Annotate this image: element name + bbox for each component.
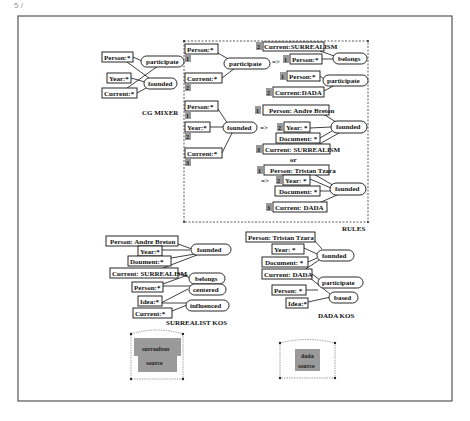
concept-label: Person: Andre Breton <box>110 238 176 246</box>
concept-label: Person: Tristan Tzara <box>248 234 314 242</box>
rules-corner <box>367 221 369 223</box>
index-number: 2 <box>267 90 270 96</box>
concept-label: Person:* <box>289 73 316 81</box>
concept-label: Current:* <box>135 310 166 318</box>
concept-label: Current: DADA <box>264 271 313 279</box>
index-number: 3 <box>257 147 260 153</box>
source-label: source <box>146 360 163 366</box>
concept-label: Idea:* <box>140 298 160 306</box>
index-number: 1 <box>284 57 287 63</box>
index-number: 2 <box>278 125 281 131</box>
or-label: or <box>290 156 297 164</box>
rule2-rhs-dada: 1 Person: Tristan Tzara => 2 Year: * Doc… <box>257 165 366 212</box>
relation-label: founded <box>227 124 252 132</box>
diagram-canvas: 5 / Person:* Year:* Current:* participat… <box>0 0 470 421</box>
implies-arrow: => <box>260 124 268 132</box>
concept-label: Person: Andre Breton <box>269 107 335 115</box>
index-number: 1 <box>281 74 284 80</box>
relation-label: founded <box>322 252 347 260</box>
concept-label: Year: * <box>286 124 308 132</box>
rule2-lhs: Person:* 1 Year:* 2 Current:* 3 founded <box>185 101 257 166</box>
concept-label: Year:* <box>140 248 160 256</box>
cg-mixer-graph: Person:* Year:* Current:* participate fo… <box>102 52 184 98</box>
rule2-rhs-surrealism: 1 Person: Andre Breton 2 Year: * Documen… <box>255 105 367 154</box>
concept-label: Year: * <box>285 177 307 185</box>
concept-label: Person: * <box>274 287 303 295</box>
dada-kos-graph: Person: Tristan Tzara Year: * Document: … <box>246 232 363 308</box>
source-label: dada <box>301 353 314 359</box>
relation-label: founded <box>335 185 360 193</box>
concept-label: Person:* <box>104 54 131 62</box>
concept-label: Current:* <box>187 150 218 158</box>
concept-label: Current: SURREALISM <box>265 146 341 154</box>
rules-corner <box>183 40 185 42</box>
index-number: 2 <box>186 85 189 91</box>
index-number: 1 <box>186 113 189 119</box>
concept-label: Current: DADA <box>275 204 324 212</box>
outer-frame <box>18 16 452 401</box>
relation-label: participate <box>327 77 360 85</box>
surrealist-kos-graph: Person: Andre Breton Year:* Doument:* fo… <box>106 236 231 318</box>
index-number: 2 <box>257 44 260 50</box>
source-label: source <box>298 363 315 369</box>
cg-mixer-label: CG MIXER <box>142 109 179 117</box>
relation-label: based <box>334 294 351 302</box>
surrealist-kos-label: SURREALIST KOS <box>166 319 227 327</box>
rules-corner <box>183 221 185 223</box>
concept-label: Person:* <box>187 46 214 54</box>
concept-label: Document: * <box>265 259 304 267</box>
concept-label: Current:* <box>104 90 135 98</box>
dada-source[interactable]: dada source <box>279 340 336 380</box>
index-number: 2 <box>277 178 280 184</box>
rules-corner <box>367 40 369 42</box>
concept-label: Year: * <box>274 246 296 254</box>
rules-label: RULES <box>342 225 365 233</box>
index-number: 3 <box>267 205 270 211</box>
concept-label: Person: Tristan Tzara <box>270 167 336 175</box>
concept-label: Current: SURREALISM <box>112 270 188 278</box>
concept-label: Current:DADA <box>275 89 322 97</box>
index-number: 1 <box>258 168 261 174</box>
concept-label: Document: * <box>279 135 318 143</box>
concept-label: Current:* <box>187 75 218 83</box>
dada-kos-label: DADA KOS <box>318 312 354 320</box>
concept-label: Year:* <box>109 75 129 83</box>
relation-label: belongs <box>338 55 361 63</box>
index-number: 1 <box>256 108 259 114</box>
concept-label: Idea:* <box>288 300 308 308</box>
relation-label: participate <box>322 279 355 287</box>
rule1-rhs-dada: 1 Person:* participate 2 Current:DADA <box>266 71 368 97</box>
concept-label: Person:* <box>134 284 161 292</box>
relation-label: participate <box>229 60 262 68</box>
relation-label: belongs <box>195 275 218 283</box>
index-number: 3 <box>186 160 189 166</box>
relation-label: founded <box>148 80 173 88</box>
implies-arrow: => <box>261 177 269 185</box>
page-marker: 5 / <box>14 1 24 10</box>
concept-label: Year:* <box>187 124 207 132</box>
relation-label: participate <box>146 58 179 66</box>
concept-label: Document: * <box>279 188 318 196</box>
relation-label: founded <box>336 123 361 131</box>
relation-label: founded <box>197 246 222 254</box>
relation-label: influenced <box>190 302 221 310</box>
concept-label: Person:* <box>292 56 319 64</box>
index-number: 1 <box>186 56 189 62</box>
rule1-lhs: Person:* 1 Current:* 2 participate <box>185 44 270 91</box>
concept-label: Current:SURREALISM <box>264 43 338 51</box>
relation-label: centered <box>193 286 219 294</box>
implies-arrow: => <box>272 58 280 66</box>
index-number: 2 <box>186 134 189 140</box>
surrealism-source[interactable]: surrealism source <box>130 330 184 380</box>
source-label: surrealism <box>142 346 169 352</box>
concept-label: Person:* <box>187 103 214 111</box>
concept-label: Doument:* <box>130 258 164 266</box>
